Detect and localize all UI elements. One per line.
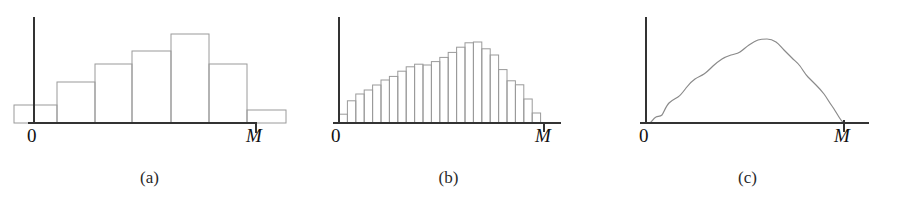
panel-b-plot (299, 0, 598, 165)
panel-a: 0 M (a) (0, 0, 299, 212)
bar (247, 110, 286, 123)
bar (482, 49, 490, 123)
axis-origin-label: 0 (639, 126, 649, 145)
bar (431, 62, 439, 123)
bar (347, 101, 355, 123)
panel-caption: (c) (598, 168, 897, 188)
bar (423, 65, 431, 123)
bar (465, 43, 473, 123)
bar (532, 113, 540, 123)
bar (389, 76, 397, 123)
density-curve (650, 39, 844, 123)
three-panel-histogram-figure: 0 M (a) (0, 0, 897, 212)
axis-max-label: M (834, 126, 850, 145)
bar (95, 64, 132, 123)
panel-a-bars (14, 34, 286, 123)
panel-b-bars (339, 42, 541, 123)
bar (490, 55, 498, 123)
bar (499, 70, 507, 123)
panel-caption: (b) (299, 168, 598, 188)
bar (209, 64, 247, 123)
bar (356, 94, 364, 123)
axis-origin-label: 0 (27, 126, 37, 145)
bar (524, 99, 532, 123)
bar (373, 85, 381, 123)
axis-max-label: M (246, 126, 262, 145)
bar (398, 71, 406, 123)
bar (364, 90, 372, 123)
bar (457, 47, 465, 123)
panel-caption: (a) (0, 168, 299, 188)
bar (132, 51, 171, 123)
bar (515, 85, 523, 123)
bar (473, 42, 481, 123)
bar (339, 114, 347, 123)
panel-c: 0 M (c) (598, 0, 897, 212)
bar (440, 57, 448, 123)
bar (415, 64, 423, 123)
axis-origin-label: 0 (331, 126, 341, 145)
bar (14, 105, 57, 123)
bar (57, 82, 95, 123)
bar (406, 67, 414, 123)
panel-b: 0 M (b) (299, 0, 598, 212)
axis-max-label: M (535, 126, 551, 145)
bar (448, 52, 456, 123)
bar (381, 80, 389, 123)
bar (171, 34, 209, 123)
bar (507, 81, 515, 123)
